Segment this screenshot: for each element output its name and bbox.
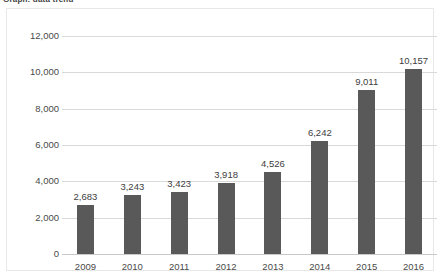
axis-baseline — [62, 254, 437, 255]
x-axis-tick-label: 2014 — [297, 261, 343, 272]
y-axis-tick-label: 4,000 — [11, 176, 59, 186]
x-axis-tick-label: 2011 — [156, 261, 202, 272]
bar-value-label: 9,011 — [344, 76, 390, 87]
bar-value-label: 2,683 — [62, 191, 108, 202]
y-axis-tick-label: 10,000 — [11, 67, 59, 77]
bar[interactable] — [264, 172, 281, 254]
bar-value-label: 3,918 — [203, 169, 249, 180]
gridline — [62, 218, 437, 219]
bar[interactable] — [358, 90, 375, 254]
gridline — [62, 109, 437, 110]
x-axis-tick-label: 2009 — [62, 261, 108, 272]
bar[interactable] — [124, 195, 141, 254]
y-axis-tick-label: 6,000 — [11, 140, 59, 150]
bar-value-label: 3,243 — [109, 181, 155, 192]
bar[interactable] — [311, 141, 328, 254]
x-axis-tick-label: 2012 — [203, 261, 249, 272]
chart-container: 02,0004,0006,0008,00010,00012,000 2,6833… — [6, 8, 434, 271]
x-axis-tick-label: 2010 — [109, 261, 155, 272]
chart-screenshot: Graph: data trend 02,0004,0006,0008,0001… — [0, 0, 437, 275]
y-axis-tick-label: 2,000 — [11, 213, 59, 223]
document-title-fragment: Graph: data trend — [3, 0, 74, 4]
bar-value-label: 6,242 — [297, 127, 343, 138]
bar-value-label: 3,423 — [156, 178, 202, 189]
y-axis-tick-label: 12,000 — [11, 31, 59, 41]
bar-value-label: 10,157 — [391, 55, 437, 66]
gridline — [62, 72, 437, 73]
gridline — [62, 36, 437, 37]
x-axis-tick-label: 2013 — [250, 261, 296, 272]
y-axis-tick-label: 8,000 — [11, 104, 59, 114]
x-axis-tick-label: 2016 — [391, 261, 437, 272]
gridline — [62, 145, 437, 146]
y-axis-tick-label: 0 — [11, 249, 59, 259]
bar[interactable] — [77, 205, 94, 254]
bar-value-label: 4,526 — [250, 158, 296, 169]
bar[interactable] — [171, 192, 188, 254]
bar[interactable] — [218, 183, 235, 254]
x-axis-tick-label: 2015 — [344, 261, 390, 272]
bar[interactable] — [405, 69, 422, 254]
y-axis: 02,0004,0006,0008,00010,00012,000 — [7, 36, 59, 254]
plot-area: 2,6833,2433,4233,9184,5266,2429,01110,15… — [62, 36, 437, 254]
